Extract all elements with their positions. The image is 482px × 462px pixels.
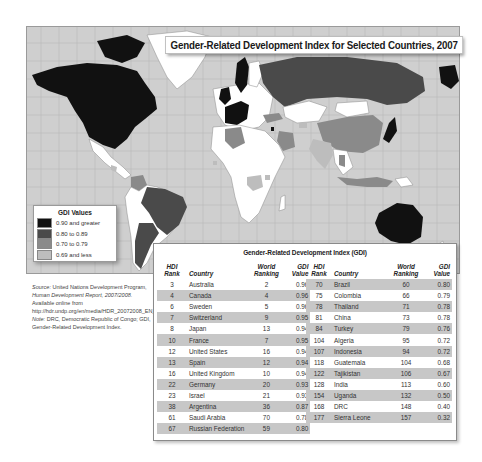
table-row: 23Israel210.93 [157, 390, 310, 401]
region-north-america [32, 63, 157, 149]
region-papua [395, 177, 413, 187]
note-label: Note: [32, 316, 45, 322]
cell-hdi: 118 [306, 357, 332, 368]
cell-country: Tajikistan [332, 368, 384, 379]
legend-swatch-090-plus [37, 218, 52, 228]
cell-world: 10 [246, 368, 286, 379]
cell-country: Uganda [332, 390, 384, 401]
cell-country: Switzerland [187, 312, 246, 323]
cell-country: Turkey [332, 323, 384, 334]
region-israel [271, 127, 274, 131]
region-thailand [339, 155, 345, 167]
cell-world: 12 [246, 357, 286, 368]
cell-gdi: 0.72 [428, 334, 452, 345]
table-row: 81China730.78 [306, 312, 452, 323]
cell-world: 5 [246, 301, 286, 312]
gdi-table-panel: Gender-Related Development Index (GDI) H… [153, 243, 457, 441]
table-title: Gender-Related Development Index (GDI) [154, 249, 456, 256]
cell-world: 157 [384, 412, 428, 423]
table-row: 3Australia20.96 [157, 279, 310, 290]
cell-gdi: 0.72 [428, 346, 452, 357]
table-row: 154Uganda1320.50 [306, 390, 452, 401]
cell-country: Japan [187, 323, 246, 334]
cell-world: 60 [384, 279, 428, 290]
cell-world: 104 [384, 357, 428, 368]
cell-hdi: 13 [157, 357, 187, 368]
legend-swatch-069-less [37, 250, 52, 260]
legend-item: 0.69 and less [34, 250, 116, 261]
legend-swatch-080-089 [37, 229, 52, 239]
legend-label: 0.90 and greater [56, 220, 100, 226]
header-country: Country [187, 263, 246, 279]
cell-hdi: 70 [306, 279, 332, 290]
region-indonesia [337, 177, 393, 187]
cell-world: 21 [246, 390, 286, 401]
table-row: 13Spain120.94 [157, 357, 310, 368]
table-row: 107Indonesia940.72 [306, 346, 452, 357]
cell-country: United States [187, 346, 246, 357]
region-uganda [265, 175, 270, 180]
table-row: 8Japan130.94 [157, 323, 310, 334]
cell-hdi: 10 [157, 334, 187, 345]
region-madagascar [279, 195, 285, 211]
table-row: 22Germany200.93 [157, 379, 310, 390]
table-row: 12United States160.94 [157, 346, 310, 357]
cell-hdi: 107 [306, 346, 332, 357]
source-label: Source: [32, 284, 51, 290]
region-tajikistan [299, 122, 307, 128]
cell-country: Russian Federation [187, 423, 246, 434]
cell-gdi: 0.76 [428, 323, 452, 334]
source-text: United Nations Development Program, [51, 284, 147, 290]
header-gdi-line1: GDI [439, 263, 450, 270]
cell-hdi: 23 [157, 390, 187, 401]
cell-world: 79 [384, 323, 428, 334]
table-row: 168DRC1480.40 [306, 401, 452, 412]
cell-world: 95 [384, 334, 428, 345]
legend-item: 0.80 to 0.89 [34, 229, 116, 240]
header-country: Country [332, 263, 384, 279]
cell-world: 113 [384, 379, 428, 390]
table-row: 6Sweden50.96 [157, 301, 310, 312]
region-japan [383, 117, 397, 143]
source-note: Source: United Nations Development Progr… [32, 283, 154, 331]
region-sierra-leone [213, 161, 217, 165]
cell-gdi: 0.67 [428, 368, 452, 379]
cell-world: 71 [384, 301, 428, 312]
cell-hdi: 67 [157, 423, 187, 434]
region-russia [259, 57, 425, 107]
cell-gdi: 0.78 [428, 312, 452, 323]
legend-swatch-070-079 [37, 239, 52, 249]
header-hdi-rank: HDI Rank [306, 263, 332, 279]
cell-gdi: 0.68 [428, 357, 452, 368]
cell-gdi: 0.78 [428, 301, 452, 312]
table-row: 118Guatemala1040.68 [306, 357, 452, 368]
cell-world: 73 [384, 312, 428, 323]
cell-hdi: 104 [306, 334, 332, 345]
legend-label: 0.70 to 0.79 [56, 241, 88, 247]
cell-hdi: 75 [306, 290, 332, 301]
table-row: 122Tajikistan1060.67 [306, 368, 452, 379]
cell-world: 94 [384, 346, 428, 357]
cell-hdi: 16 [157, 368, 187, 379]
table-row: 61Saudi Arabia700.78 [157, 412, 310, 423]
cell-world: 9 [246, 312, 286, 323]
cell-country: Australia [187, 279, 246, 290]
cell-hdi: 61 [157, 412, 187, 423]
cell-hdi: 6 [157, 301, 187, 312]
cell-hdi: 8 [157, 323, 187, 334]
cell-gdi: 0.40 [428, 401, 452, 412]
cell-hdi: 78 [306, 301, 332, 312]
cell-country: Guatemala [332, 357, 384, 368]
cell-country: Sweden [187, 301, 246, 312]
region-mongolia [335, 101, 369, 117]
legend-label: 0.80 to 0.89 [56, 231, 88, 237]
cell-gdi: 0.32 [428, 412, 452, 423]
table-row: 38Argentina360.87 [157, 401, 310, 412]
cell-country: Algeria [332, 334, 384, 345]
cell-world: 36 [246, 401, 286, 412]
cell-world: 106 [384, 368, 428, 379]
cell-hdi: 12 [157, 346, 187, 357]
table-row: 4Canada40.96 [157, 290, 310, 301]
cell-world: 4 [246, 290, 286, 301]
cell-hdi: 84 [306, 323, 332, 334]
